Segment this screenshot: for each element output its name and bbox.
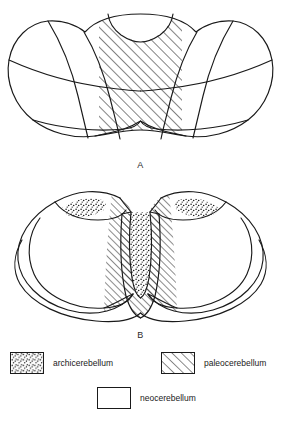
legend-label-neocerebellum: neocerebellum xyxy=(140,393,196,403)
panel-b-svg xyxy=(0,178,281,326)
swatch-hatch-icon xyxy=(161,352,195,374)
legend-label-paleocerebellum: paleocerebellum xyxy=(204,358,266,368)
swatch-stipple-icon xyxy=(10,352,44,374)
paleocerebellum-region-a xyxy=(99,8,182,156)
archicerebellum-flocculus-b-right xyxy=(175,198,219,217)
legend-label-archicerebellum: archicerebellum xyxy=(53,358,113,368)
swatch-plain-icon xyxy=(97,387,131,409)
lobule-arc-right-outer-a xyxy=(193,21,233,138)
archicerebellum-flocculus-b-left xyxy=(62,198,106,217)
panel-label-b: B xyxy=(0,330,281,340)
cerebellum-diagram-superior xyxy=(0,8,281,156)
legend-item-paleocerebellum: paleocerebellum xyxy=(161,352,266,374)
legend-item-neocerebellum: neocerebellum xyxy=(97,387,196,409)
panel-a-svg xyxy=(0,8,281,156)
panel-label-a: A xyxy=(0,160,281,170)
legend-item-archicerebellum: archicerebellum xyxy=(10,352,113,374)
cerebellum-diagram-inferior xyxy=(0,178,281,326)
lobule-arc-left-outer-a xyxy=(48,21,88,138)
